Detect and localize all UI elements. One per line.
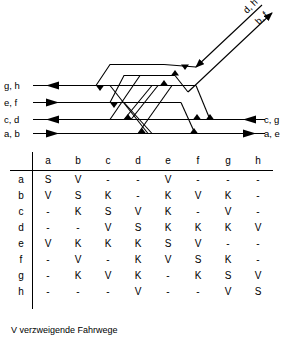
track-topology-diagram: g, h e, f c, d a, b c, g a, e d, h b, f: [0, 0, 300, 150]
matrix-cell: S: [153, 236, 183, 252]
matrix-cell: K: [123, 252, 153, 268]
matrix-cell: K: [123, 236, 153, 252]
matrix-cell: V: [33, 236, 64, 252]
matrix-cell: -: [243, 204, 273, 220]
matrix-cell: K: [183, 220, 213, 236]
matrix-rule-tail-cell: [10, 300, 33, 309]
table-row: f - V - K V S K -: [10, 252, 273, 268]
table-row: a S V - - V - - -: [10, 171, 273, 189]
track-label-ef: e, f: [4, 97, 18, 108]
matrix-cell: -: [33, 252, 64, 268]
matrix-cell: V: [183, 188, 213, 204]
track-label-cg: c, g: [264, 114, 279, 125]
matrix-col-header-e: e: [153, 152, 183, 171]
matrix-cell: V: [183, 236, 213, 252]
matrix-cell: -: [63, 284, 93, 300]
matrix-row-header-g: g: [10, 268, 33, 284]
matrix-row-header-f: f: [10, 252, 33, 268]
matrix-cell: -: [93, 284, 123, 300]
matrix-cell: V: [123, 204, 153, 220]
matrix-rule-tail: [10, 300, 273, 309]
track-label-cd: c, d: [4, 114, 19, 125]
matrix-cell: V: [153, 171, 183, 189]
table-row: c - K S V K - V -: [10, 204, 273, 220]
track-label-gh: g, h: [4, 80, 20, 91]
matrix-cell: K: [153, 204, 183, 220]
matrix-cell: -: [183, 171, 213, 189]
matrix-cell: -: [63, 220, 93, 236]
table-row: e V K K K S V - -: [10, 236, 273, 252]
matrix-cell: K: [213, 188, 243, 204]
matrix-cell: V: [213, 204, 243, 220]
matrix-cell: -: [93, 171, 123, 189]
matrix-cell: -: [123, 171, 153, 189]
matrix-cell: V: [243, 220, 273, 236]
route-conflict-matrix-container: a b c d e f g h a S V - - V - - -: [0, 152, 300, 322]
matrix-cell: V: [123, 284, 153, 300]
rail-cross-6: [110, 76, 140, 120]
table-row: h - - - V - - V S: [10, 284, 273, 300]
rail-cross-4: [138, 86, 172, 134]
matrix-cell: -: [183, 284, 213, 300]
matrix-col-header-c: c: [93, 152, 123, 171]
matrix-cell: V: [213, 284, 243, 300]
matrix-col-header-d: d: [123, 152, 153, 171]
matrix-cell: K: [63, 268, 93, 284]
matrix-cell: V: [93, 220, 123, 236]
matrix-cell: V: [243, 268, 273, 284]
matrix-cell: S: [183, 252, 213, 268]
matrix-col-header-g: g: [213, 152, 243, 171]
track-arrowheads: [46, 82, 256, 138]
table-row: g - K V K - K S V: [10, 268, 273, 284]
matrix-cell: S: [63, 188, 93, 204]
matrix-cell: K: [93, 188, 123, 204]
arrow-ab-right: [46, 130, 59, 138]
track-label-ae: a, e: [264, 128, 280, 139]
matrix-cell: -: [33, 268, 64, 284]
matrix-cell: -: [183, 204, 213, 220]
matrix-cell: K: [153, 220, 183, 236]
matrix-cell: -: [243, 188, 273, 204]
table-row: b V S K - K V K -: [10, 188, 273, 204]
arrow-cd-left: [46, 116, 59, 124]
arrow-gh-left: [46, 82, 59, 90]
rail-ef-down-right: [181, 103, 195, 134]
matrix-cell: K: [93, 236, 123, 252]
matrix-row-header-b: b: [10, 188, 33, 204]
matrix-cell: V: [33, 188, 64, 204]
matrix-cell: -: [153, 268, 183, 284]
rail-feed-bf: [175, 76, 188, 93]
matrix-corner-cell: [10, 152, 33, 171]
rail-cross-1: [110, 86, 148, 134]
matrix-row-header-e: e: [10, 236, 33, 252]
arrow-cg-left: [243, 116, 256, 124]
matrix-row-header-c: c: [10, 204, 33, 220]
matrix-row-header-a: a: [10, 171, 33, 189]
diagonal-line-dh: [196, 5, 262, 67]
matrix-cell: K: [153, 188, 183, 204]
matrix-row-header-h: h: [10, 284, 33, 300]
matrix-cell: -: [33, 220, 64, 236]
matrix-cell: -: [213, 236, 243, 252]
matrix-cell: S: [93, 204, 123, 220]
matrix-cell: K: [63, 204, 93, 220]
table-row: d - - V S K K K V: [10, 220, 273, 236]
matrix-cell: -: [153, 284, 183, 300]
matrix-col-header-f: f: [183, 152, 213, 171]
matrix-col-header-h: h: [243, 152, 273, 171]
track-topology-svg: g, h e, f c, d a, b c, g a, e d, h b, f: [0, 0, 300, 152]
matrix-cell: V: [63, 252, 93, 268]
matrix-cell: S: [33, 171, 64, 189]
matrix-cell: K: [123, 268, 153, 284]
matrix-cell: -: [213, 171, 243, 189]
legend-caption: V verzweigende Fahrwege: [11, 325, 118, 335]
matrix-cell: -: [243, 171, 273, 189]
matrix-cell: -: [33, 204, 64, 220]
rail-gh-down-right: [196, 86, 210, 120]
matrix-col-header-b: b: [63, 152, 93, 171]
arrow-ef-right: [46, 99, 59, 107]
matrix-cell: -: [93, 252, 123, 268]
matrix-cell: V: [153, 252, 183, 268]
matrix-rule-tail-spacer: [33, 300, 274, 309]
track-label-ab: a, b: [4, 128, 20, 139]
